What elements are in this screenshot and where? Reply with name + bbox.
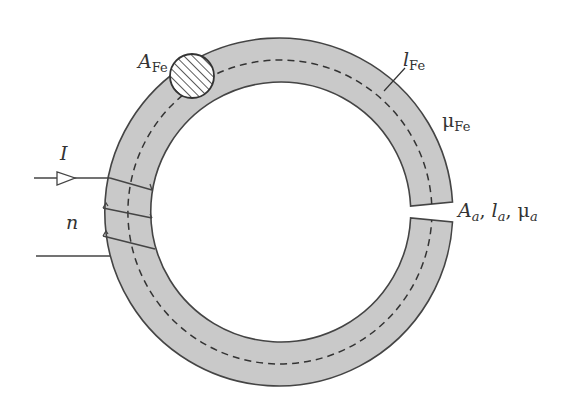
cross-section-circle xyxy=(170,54,214,98)
label-core-length: lFe xyxy=(403,48,425,73)
label-core-permeability: μFe xyxy=(442,109,471,134)
label-gap-params: Aa, la, μa xyxy=(456,199,538,224)
magnetic-circuit-diagram: AFe lFe μFe Aa, la, μa I n xyxy=(0,0,563,414)
current-arrow-icon xyxy=(57,172,75,185)
label-turns: n xyxy=(66,211,78,233)
iron-core xyxy=(105,38,453,386)
label-current: I xyxy=(59,142,68,164)
label-core-area: AFe xyxy=(136,50,168,75)
